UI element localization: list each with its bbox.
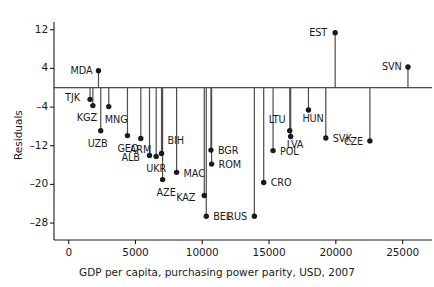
point-label-rom: ROM [219,160,241,170]
data-point-marker[interactable] [106,104,111,109]
data-point-marker[interactable] [367,138,372,143]
data-point-marker[interactable] [90,103,95,108]
data-point-marker[interactable] [87,97,92,102]
data-point-marker[interactable] [332,30,337,35]
data-point-marker[interactable] [204,214,209,219]
data-point-marker[interactable] [160,177,165,182]
data-point-marker[interactable] [261,180,266,185]
point-label-mac: MAC [184,169,205,179]
y-axis-tick-label: –28 [6,216,48,228]
data-point-marker[interactable] [252,214,257,219]
data-point-marker[interactable] [287,128,292,133]
point-label-cze: CZE [344,137,363,147]
point-label-est: EST [309,28,327,38]
point-label-mda: MDA [70,66,92,76]
data-point-marker[interactable] [125,133,130,138]
x-axis-tick-label: 10000 [172,246,232,258]
data-point-marker[interactable] [208,147,213,152]
point-label-tjk: TJK [65,93,80,103]
point-label-lva: LVA [287,140,304,150]
point-label-svn: SVN [382,62,402,72]
data-point-marker[interactable] [159,151,164,156]
data-point-marker[interactable] [174,170,179,175]
data-point-marker[interactable] [153,154,158,159]
plot-canvas [0,0,434,287]
x-axis-title: GDP per capita, purchasing power parity,… [0,266,434,278]
x-axis-tick-label: 25000 [373,246,433,258]
point-label-kaz: KAZ [176,193,195,203]
residuals-scatter-chart: 124–4–12–20–280500010000150002000025000 … [0,0,434,287]
point-label-ltu: LTU [269,115,286,125]
x-axis-tick-label: 5000 [105,246,165,258]
x-axis-tick-label: 15000 [239,246,299,258]
point-label-alb: ALB [122,153,140,163]
point-label-bih: BIH [168,136,185,146]
point-label-rus: RUS [227,212,247,222]
data-point-marker[interactable] [270,148,275,153]
data-point-marker[interactable] [202,193,207,198]
y-axis-tick-label: 4 [6,61,48,73]
x-axis-tick-label: 20000 [306,246,366,258]
y-axis-tick-label: 12 [6,23,48,35]
point-label-kgz: KGZ [77,113,97,123]
point-label-mng: MNG [105,115,128,125]
data-point-marker[interactable] [405,64,410,69]
point-label-ukr: UKR [146,164,166,174]
y-axis-title: Residuals [12,110,24,160]
y-axis-tick-label: –20 [6,177,48,189]
data-point-marker[interactable] [96,68,101,73]
point-label-bgr: BGR [218,146,238,156]
data-point-marker[interactable] [98,128,103,133]
data-point-marker[interactable] [306,107,311,112]
point-label-cro: CRO [271,178,292,188]
point-label-aze: AZE [157,188,176,198]
data-point-marker[interactable] [138,136,143,141]
data-point-marker[interactable] [323,135,328,140]
x-axis-tick-label: 0 [39,246,99,258]
point-label-hun: HUN [302,114,323,124]
point-label-uzb: UZB [88,139,108,149]
data-point-marker[interactable] [209,161,214,166]
